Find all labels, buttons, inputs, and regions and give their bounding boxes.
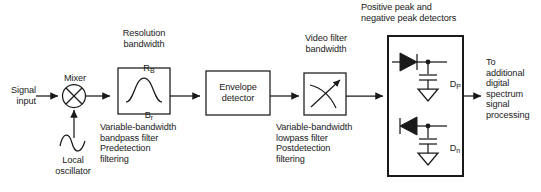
slope-arrow-icon — [310, 80, 340, 108]
positive-peak-diode-icon — [400, 53, 417, 71]
dp-label: DP — [440, 68, 464, 102]
negative-peak-diode-icon — [400, 117, 417, 135]
diagram-canvas: Signal input Mixer Local oscillator Reso… — [0, 0, 541, 192]
output-caption: To additional digital spectrum signal pr… — [486, 57, 541, 121]
mixer-symbol — [63, 85, 86, 108]
lowpass-filter-caption: Variable-bandwidth lowpass filter Postde… — [276, 122, 388, 164]
mixer-label: Mixer — [54, 73, 96, 84]
rb-symbol-sub: B — [150, 66, 155, 73]
dn-label: Dn — [440, 132, 464, 166]
video-filter-bandwidth-label: Video filter bandwidth — [288, 33, 364, 54]
bandpass-filter-caption: Variable-bandwidth bandpass filter Prede… — [100, 122, 212, 164]
br-symbol-sub: r — [151, 113, 153, 120]
sine-wave-icon — [60, 135, 85, 151]
envelope-detector-label: Envelope detector — [208, 82, 268, 103]
peak-detectors-title: Positive peak and negative peak detector… — [361, 2, 493, 23]
local-oscillator-label: Local oscillator — [44, 155, 102, 176]
resolution-bandwidth-label: Resolution bandwidth — [104, 28, 184, 49]
dp-symbol-sub: P — [456, 82, 461, 89]
signal-input-label: Signal input — [2, 85, 36, 106]
dn-symbol-sub: n — [456, 146, 460, 153]
rb-symbol-label: RB — [126, 52, 162, 86]
